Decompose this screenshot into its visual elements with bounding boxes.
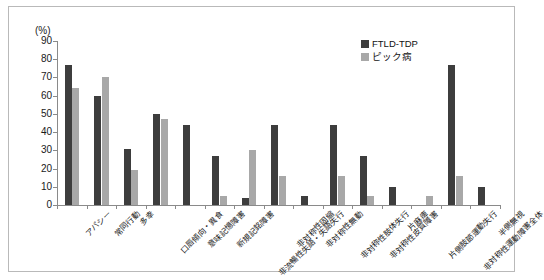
- x-axis-tick: [87, 205, 88, 209]
- x-axis-tick: [411, 205, 412, 209]
- bar--: [161, 119, 168, 205]
- bar-group: [323, 41, 353, 205]
- bar--: [426, 196, 433, 205]
- bar-group: [441, 41, 471, 205]
- bar-group: [234, 41, 264, 205]
- bar-group: [382, 41, 412, 205]
- y-axis-tick-label: 30: [41, 145, 52, 155]
- x-axis-tick: [352, 205, 353, 209]
- x-axis-category-label: 常同行動: [114, 210, 142, 238]
- bar-group: [205, 41, 235, 205]
- bar--: [249, 150, 256, 205]
- y-axis-tick-label: 20: [41, 164, 52, 174]
- bar-ftld-tdp: [242, 198, 249, 205]
- bar-ftld-tdp: [330, 125, 337, 205]
- x-axis-tick: [500, 205, 501, 209]
- bar-group: [57, 41, 87, 205]
- bar-ftld-tdp: [301, 196, 308, 205]
- bar-ftld-tdp: [271, 125, 278, 205]
- bar-group: [470, 41, 500, 205]
- bar--: [220, 196, 227, 205]
- bar--: [279, 176, 286, 205]
- x-axis-category-label: 多幸: [139, 210, 156, 227]
- bar-ftld-tdp: [389, 187, 396, 205]
- bar--: [367, 196, 374, 205]
- x-axis-category-label: 片側肢節運動失行: [448, 210, 499, 261]
- y-axis-tick-label: 90: [41, 36, 52, 46]
- bar-group: [264, 41, 294, 205]
- bar-ftld-tdp: [448, 65, 455, 205]
- bar-ftld-tdp: [360, 156, 367, 205]
- bar-ftld-tdp: [183, 125, 190, 205]
- y-axis-tick-label: 70: [41, 72, 52, 82]
- x-axis-tick: [264, 205, 265, 209]
- y-axis-tick-label: 10: [41, 182, 52, 192]
- bar-group: [87, 41, 117, 205]
- bar-ftld-tdp: [153, 114, 160, 205]
- bar--: [338, 176, 345, 205]
- x-axis-tick: [323, 205, 324, 209]
- x-axis-tick: [470, 205, 471, 209]
- x-axis-category-label: 非対称性肢体失行: [359, 210, 410, 261]
- bar--: [131, 170, 138, 205]
- bar-group: [146, 41, 176, 205]
- bar-group: [411, 41, 441, 205]
- x-axis-category-label: アパシー: [84, 210, 112, 238]
- bar-ftld-tdp: [478, 187, 485, 205]
- chart-frame: (%) FTLD-TDPピック病 0102030405060708090 アパシ…: [8, 6, 515, 272]
- x-axis-line: [57, 205, 501, 206]
- bar--: [72, 88, 79, 205]
- x-axis-tick: [234, 205, 235, 209]
- bar--: [456, 176, 463, 205]
- bar-group: [116, 41, 146, 205]
- bar-ftld-tdp: [212, 156, 219, 205]
- bar-ftld-tdp: [124, 149, 131, 205]
- bar-group: [352, 41, 382, 205]
- x-axis-tick: [382, 205, 383, 209]
- y-axis-tick-label: 80: [41, 54, 52, 64]
- bar-ftld-tdp: [94, 96, 101, 205]
- x-axis-tick: [441, 205, 442, 209]
- bar-ftld-tdp: [65, 65, 72, 205]
- bar-group: [293, 41, 323, 205]
- x-axis-tick: [116, 205, 117, 209]
- x-axis-tick: [293, 205, 294, 209]
- y-axis-tick-label: 50: [41, 109, 52, 119]
- x-axis-tick: [146, 205, 147, 209]
- x-axis-tick: [205, 205, 206, 209]
- y-axis-tick-label: 60: [41, 91, 52, 101]
- x-axis-tick: [57, 205, 58, 209]
- y-axis-tick-label: 40: [41, 127, 52, 137]
- x-axis-tick: [175, 205, 176, 209]
- plot-area: 0102030405060708090: [57, 41, 500, 205]
- bar--: [102, 77, 109, 205]
- y-axis-tick-label: 0: [46, 200, 52, 210]
- bar-group: [175, 41, 205, 205]
